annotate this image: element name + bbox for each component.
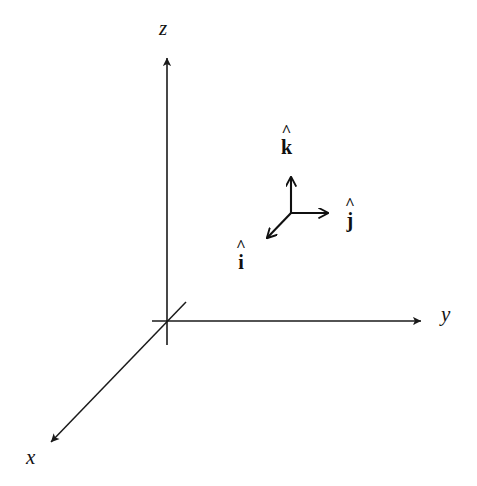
z-axis-label: z <box>159 18 167 39</box>
y-axis-label: y <box>441 304 450 325</box>
k-hat-letter: k <box>281 137 292 157</box>
unit-vector-triad <box>267 177 328 238</box>
k-hat-label: ^ k <box>281 127 292 157</box>
j-hat-label: ^ j <box>345 200 355 230</box>
x-axis-label: x <box>26 447 35 468</box>
k-hat-caret: ^ <box>281 127 292 136</box>
i-hat-label: ^ i <box>236 242 246 272</box>
j-hat-caret: ^ <box>345 200 355 209</box>
i-hat-caret: ^ <box>236 242 246 251</box>
x-axis-line <box>51 302 186 442</box>
i-hat-arrow <box>267 213 291 238</box>
coordinate-axes-figure: z y x ^ k ^ j ^ i <box>0 0 477 486</box>
